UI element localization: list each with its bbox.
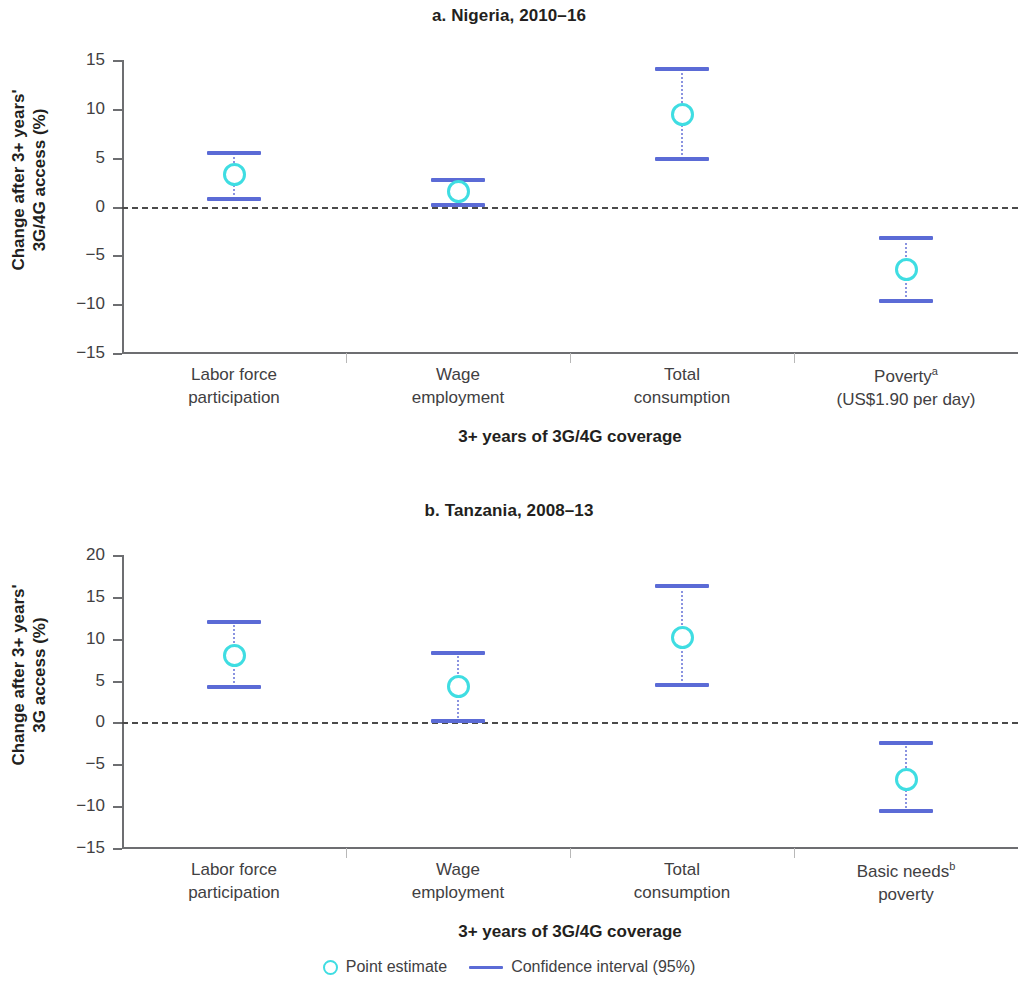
y-axis-title-line2: 3G/4G access (%) xyxy=(30,109,49,252)
category-label-line1: Total xyxy=(664,860,700,879)
chart-panel-nigeria: a. Nigeria, 2010–16 Change after 3+ year… xyxy=(0,0,1018,470)
category-footnote-marker: a xyxy=(932,365,938,377)
y-tick xyxy=(113,681,122,683)
category-separator xyxy=(794,353,795,363)
y-tick xyxy=(113,60,122,62)
zero-reference-line xyxy=(122,207,1018,209)
point-estimate-marker xyxy=(895,258,918,281)
category-label-line2: participation xyxy=(188,883,280,902)
confidence-interval-upper-cap xyxy=(879,236,933,240)
confidence-interval-lower-cap xyxy=(431,203,485,207)
y-tick xyxy=(113,353,122,355)
confidence-interval-upper-cap xyxy=(655,67,709,71)
y-tick-label: 10 xyxy=(86,99,105,119)
confidence-interval-lower-cap xyxy=(207,685,261,689)
y-tick xyxy=(113,255,122,257)
category-label-line1: Labor force xyxy=(191,365,277,384)
category-label: Wageemployment xyxy=(346,859,570,905)
y-tick-label: 15 xyxy=(86,587,105,607)
category-label: Labor forceparticipation xyxy=(122,364,346,410)
y-axis-title-line2: 3G access (%) xyxy=(30,617,49,732)
y-tick-label: 20 xyxy=(86,545,105,565)
y-tick-label: −5 xyxy=(86,245,105,265)
category-separator xyxy=(570,848,571,858)
category-label-line2: consumption xyxy=(634,388,730,407)
category-label-line1: Wage xyxy=(436,860,480,879)
y-tick-label: −10 xyxy=(76,294,105,314)
legend-item-confidence-interval: Confidence interval (95%) xyxy=(469,958,695,976)
confidence-interval-lower-cap xyxy=(655,157,709,161)
plot-area: 20151050−5−10−15 xyxy=(122,555,1018,848)
category-separator xyxy=(794,848,795,858)
point-estimate-marker xyxy=(671,626,694,649)
point-estimate-marker xyxy=(223,644,246,667)
category-label-line2: consumption xyxy=(634,883,730,902)
y-tick xyxy=(113,639,122,641)
category-label-line1: Poverty xyxy=(874,367,932,386)
confidence-interval-lower-cap xyxy=(655,683,709,687)
confidence-interval-lower-cap xyxy=(879,299,933,303)
category-separator xyxy=(346,353,347,363)
category-label: Basic needsbpoverty xyxy=(794,859,1018,907)
confidence-interval-upper-cap xyxy=(655,584,709,588)
category-label: Labor forceparticipation xyxy=(122,859,346,905)
y-tick xyxy=(113,806,122,808)
legend-label-point-estimate: Point estimate xyxy=(346,958,447,976)
category-separator xyxy=(346,848,347,858)
y-tick-label: 5 xyxy=(96,148,105,168)
category-label: Povertya(US$1.90 per day) xyxy=(794,364,1018,412)
chart-legend: Point estimate Confidence interval (95%) xyxy=(0,958,1018,976)
y-axis-title-line1: Change after 3+ years' xyxy=(9,89,28,270)
category-label-line2: (US$1.90 per day) xyxy=(837,390,976,409)
y-tick-label: −15 xyxy=(76,838,105,858)
confidence-interval-lower-cap xyxy=(879,809,933,813)
y-tick xyxy=(113,555,122,557)
y-tick xyxy=(113,304,122,306)
y-tick-label: −15 xyxy=(76,343,105,363)
point-estimate-marker xyxy=(671,103,694,126)
point-estimate-marker xyxy=(447,675,470,698)
zero-reference-line xyxy=(122,722,1018,724)
y-tick-label: 0 xyxy=(96,197,105,217)
panel-title: b. Tanzania, 2008–13 xyxy=(0,501,1018,521)
point-estimate-icon xyxy=(323,960,338,975)
confidence-interval-upper-cap xyxy=(207,151,261,155)
y-tick-label: −10 xyxy=(76,796,105,816)
panel-title: a. Nigeria, 2010–16 xyxy=(0,6,1018,26)
y-axis-title: Change after 3+ years' 3G/4G access (%) xyxy=(8,30,51,330)
y-axis-title: Change after 3+ years' 3G access (%) xyxy=(8,525,51,825)
y-tick xyxy=(113,158,122,160)
category-label-line2: employment xyxy=(412,883,505,902)
confidence-interval-lower-cap xyxy=(207,197,261,201)
y-tick-label: 15 xyxy=(86,50,105,70)
legend-item-point-estimate: Point estimate xyxy=(323,958,447,976)
category-label-line1: Labor force xyxy=(191,860,277,879)
category-label: Totalconsumption xyxy=(570,859,794,905)
category-label-line1: Total xyxy=(664,365,700,384)
category-label-line1: Wage xyxy=(436,365,480,384)
category-footnote-marker: b xyxy=(949,860,955,872)
category-label-line1: Basic needs xyxy=(857,862,950,881)
legend-label-confidence-interval: Confidence interval (95%) xyxy=(511,958,695,976)
y-tick-label: 5 xyxy=(96,671,105,691)
confidence-interval-lower-cap xyxy=(431,719,485,723)
y-tick xyxy=(113,764,122,766)
category-label-line2: poverty xyxy=(878,885,934,904)
plot-area: 151050−5−10−15 xyxy=(122,60,1018,353)
confidence-interval-upper-cap xyxy=(879,741,933,745)
category-label-line2: participation xyxy=(188,388,280,407)
category-label: Wageemployment xyxy=(346,364,570,410)
x-axis-title: 3+ years of 3G/4G coverage xyxy=(122,922,1018,942)
y-axis-line xyxy=(122,555,124,848)
confidence-interval-upper-cap xyxy=(207,620,261,624)
y-tick-label: 10 xyxy=(86,629,105,649)
point-estimate-marker xyxy=(447,180,470,203)
y-tick-label: 0 xyxy=(96,712,105,732)
y-axis-title-line1: Change after 3+ years' xyxy=(9,584,28,765)
category-label: Totalconsumption xyxy=(570,364,794,410)
category-separator xyxy=(570,353,571,363)
chart-panel-tanzania: b. Tanzania, 2008–13 Change after 3+ yea… xyxy=(0,495,1018,965)
y-tick xyxy=(113,597,122,599)
y-tick xyxy=(113,722,122,724)
confidence-interval-icon xyxy=(469,966,503,969)
